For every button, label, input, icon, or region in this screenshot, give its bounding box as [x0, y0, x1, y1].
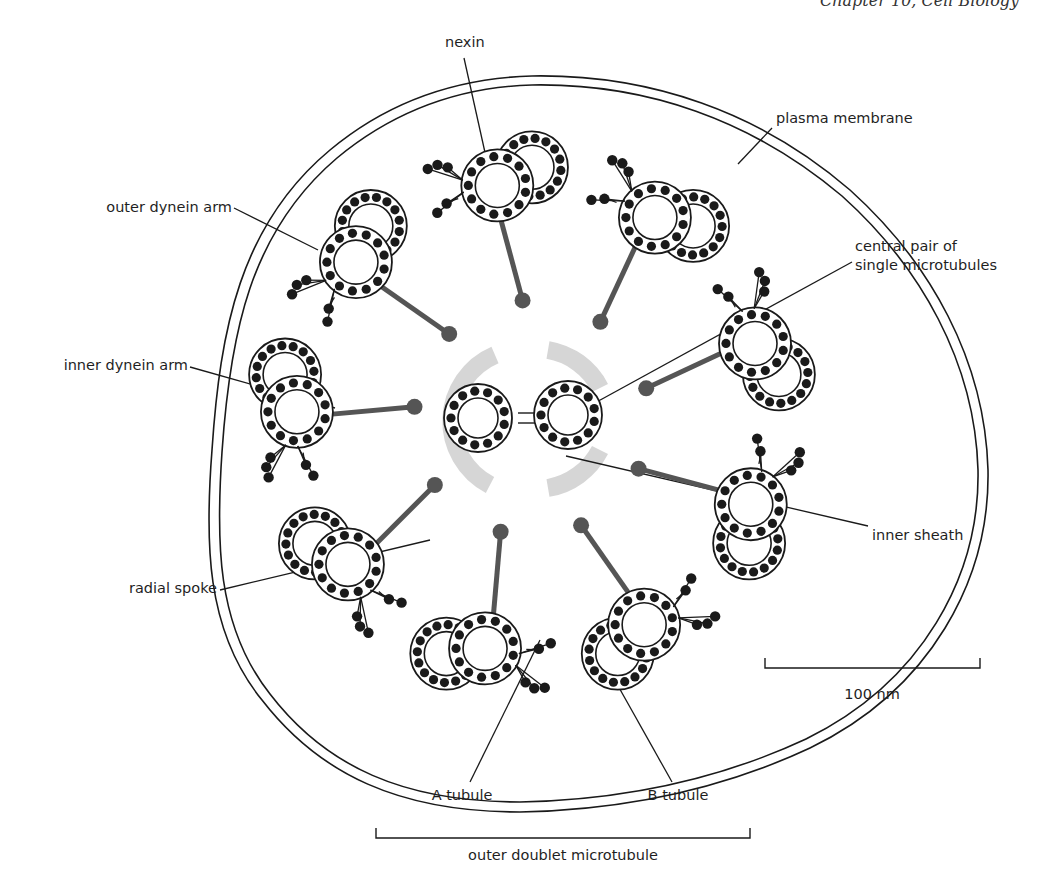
protofilament [429, 675, 438, 684]
protofilament [476, 205, 485, 214]
outer-dynein-arm [292, 280, 302, 290]
protofilament [716, 532, 725, 541]
protofilament [678, 206, 687, 215]
header-fragment: Chapter 10, Cell Biology [820, 0, 1019, 10]
protofilament [289, 436, 298, 445]
protofilament [720, 486, 729, 495]
protofilament [423, 627, 432, 636]
inner-dynein-arm [432, 208, 442, 218]
protofilament [365, 541, 374, 550]
outer-dynein-arm [432, 160, 442, 170]
protofilament [277, 341, 286, 350]
protofilament [326, 244, 335, 253]
protofilament [354, 587, 363, 596]
protofilament [362, 285, 371, 294]
protofilament [455, 657, 464, 666]
protofilament [276, 383, 285, 392]
protofilament [335, 281, 344, 290]
protofilament [509, 651, 518, 660]
protofilament [303, 434, 312, 443]
protofilament [556, 166, 565, 175]
protofilament [590, 666, 599, 675]
protofilament [539, 423, 548, 432]
spoke-head [515, 292, 531, 308]
protofilament [550, 145, 559, 154]
outer-doublet [410, 524, 556, 694]
protofilament [500, 407, 509, 416]
outer-dynein-arm [607, 155, 617, 165]
inner-dynein-arm [755, 446, 765, 456]
protofilament [354, 533, 363, 542]
protofilament [661, 186, 670, 195]
protofilament [276, 431, 285, 440]
protofilament [553, 177, 562, 186]
protofilament [725, 352, 734, 361]
protofilament [647, 242, 656, 251]
outer-doublet [631, 433, 805, 579]
protofilament [721, 339, 730, 348]
label-inner-dynein-arm: inner dynein arm [64, 357, 188, 374]
protofilament [373, 238, 382, 247]
protofilament [668, 627, 677, 636]
spoke-head [638, 380, 654, 396]
protofilament [458, 436, 467, 445]
protofilament [327, 584, 336, 593]
spoke-head [493, 524, 509, 540]
protofilament [774, 507, 783, 516]
spoke-head [592, 314, 608, 330]
a-tubule [461, 149, 533, 221]
protofilament [449, 426, 458, 435]
protofilament [715, 233, 724, 242]
spoke-head [427, 477, 443, 493]
protofilament [796, 389, 805, 398]
protofilament [318, 573, 327, 582]
protofilament [536, 410, 545, 419]
protofilament [362, 230, 371, 239]
protofilament [709, 242, 718, 251]
protofilament [590, 404, 599, 413]
protofilament [373, 277, 382, 286]
protofilament [500, 420, 509, 429]
outer-dynein-arm [760, 276, 770, 286]
protofilament [476, 157, 485, 166]
protofilament [372, 193, 381, 202]
protofilament [449, 401, 458, 410]
protofilament [623, 644, 632, 653]
protofilament [371, 553, 380, 562]
protofilament [661, 240, 670, 249]
spoke-head [407, 399, 423, 415]
protofilament [647, 184, 656, 193]
protofilament [734, 363, 743, 372]
protofilament [650, 593, 659, 602]
protofilament [521, 188, 530, 197]
protofilament [458, 391, 467, 400]
inner-dynein-arm [752, 433, 762, 443]
outer-doublet [279, 477, 443, 638]
protofilament [416, 636, 425, 645]
protofilament [772, 358, 781, 367]
radial-spoke [646, 351, 726, 388]
protofilament [530, 134, 539, 143]
protofilament [455, 630, 464, 639]
protofilament [371, 567, 380, 576]
outer-doublet [249, 339, 422, 483]
label-central-pair-line1: central pair of [855, 238, 957, 255]
protofilament [320, 414, 329, 423]
protofilament [768, 480, 777, 489]
protofilament [636, 591, 645, 600]
inner-dynein-arm [441, 198, 451, 208]
protofilament [300, 566, 309, 575]
protofilament [725, 325, 734, 334]
protofilament [609, 678, 618, 687]
protofilament [491, 671, 500, 680]
protofilament [720, 554, 729, 563]
protofilament [451, 644, 460, 653]
protofilament [432, 622, 441, 631]
protofilament [467, 194, 476, 203]
protofilament [761, 312, 770, 321]
protofilament [519, 135, 528, 144]
protofilament [289, 519, 298, 528]
protofilament [743, 471, 752, 480]
protofilament [491, 617, 500, 626]
protofilament [668, 613, 677, 622]
